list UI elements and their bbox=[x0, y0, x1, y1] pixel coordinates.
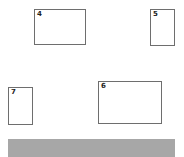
window-5[interactable]: 5 bbox=[150, 9, 175, 46]
window-4[interactable]: 4 bbox=[34, 9, 86, 45]
window-7[interactable]: 7 bbox=[8, 87, 33, 125]
window-6-label: 6 bbox=[101, 83, 106, 90]
taskbar[interactable] bbox=[8, 139, 175, 157]
window-5-label: 5 bbox=[153, 11, 158, 18]
window-6[interactable]: 6 bbox=[98, 81, 162, 124]
window-4-label: 4 bbox=[37, 11, 42, 18]
window-7-label: 7 bbox=[11, 89, 16, 96]
